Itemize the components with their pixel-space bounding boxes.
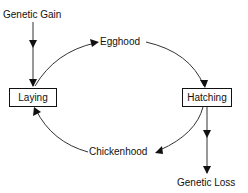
node-genetic-gain: Genetic Gain [3, 10, 61, 20]
edge-egghood-to-hatching [146, 42, 204, 86]
arrowhead-icon [203, 130, 211, 138]
node-egghood: Egghood [100, 37, 140, 47]
node-chickenhood: Chickenhood [89, 147, 147, 157]
arrowhead-icon [203, 166, 211, 174]
node-laying: Laying [9, 88, 57, 107]
arrowhead-icon [29, 40, 37, 48]
node-genetic-loss: Genetic Loss [177, 178, 235, 188]
arrowhead-icon [33, 107, 41, 116]
edge-chickenhood-to-laying [36, 110, 88, 152]
arrowhead-icon [155, 146, 163, 154]
edge-laying-to-egghood [35, 43, 95, 86]
arrowhead-icon [200, 80, 208, 88]
node-hatching: Hatching [182, 88, 232, 107]
edge-hatching-to-chickenhood [160, 107, 203, 150]
arrowhead-icon [90, 39, 99, 47]
life-cycle-diagram: Genetic Gain Laying Egghood Hatching Chi… [0, 0, 248, 193]
arrowhead-icon [29, 79, 37, 87]
